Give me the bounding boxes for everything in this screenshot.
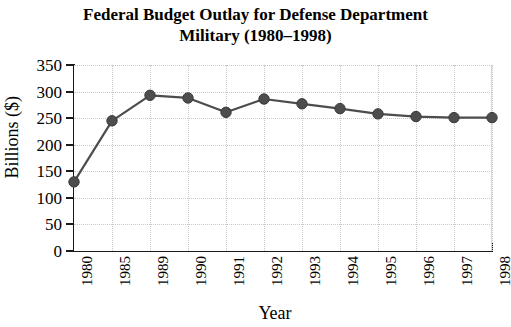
x-tick-label: 1998 bbox=[498, 256, 511, 286]
x-axis-title: Year bbox=[230, 303, 320, 324]
data-series-line bbox=[74, 65, 492, 251]
data-point-marker bbox=[411, 111, 421, 121]
data-point-marker bbox=[297, 99, 307, 109]
gridline-vertical bbox=[492, 65, 493, 251]
y-tick-label: 300 bbox=[37, 84, 63, 101]
y-tick-label: 150 bbox=[37, 163, 63, 180]
x-tick-label: 1995 bbox=[384, 256, 399, 286]
data-point-marker bbox=[259, 94, 269, 104]
y-tick-label: 0 bbox=[54, 243, 63, 260]
data-point-marker bbox=[107, 116, 117, 126]
x-tick-label: 1990 bbox=[194, 256, 209, 286]
data-point-marker bbox=[221, 107, 231, 117]
x-tick-label: 1994 bbox=[346, 256, 361, 286]
x-tick-label: 1997 bbox=[460, 256, 475, 286]
data-point-marker bbox=[69, 177, 79, 187]
data-point-marker bbox=[487, 112, 497, 122]
y-axis-title: Billions ($) bbox=[2, 96, 23, 179]
x-tick-label: 1996 bbox=[422, 256, 437, 286]
plot-area bbox=[74, 65, 492, 251]
chart-title-line-1: Federal Budget Outlay for Defense Depart… bbox=[0, 4, 511, 25]
chart-title: Federal Budget Outlay for Defense Depart… bbox=[0, 4, 511, 46]
y-tick-label: 250 bbox=[37, 110, 63, 127]
x-tick-label: 1993 bbox=[308, 256, 323, 286]
y-tick-label: 350 bbox=[37, 57, 63, 74]
x-tick-label: 1980 bbox=[80, 256, 95, 286]
x-tick-label: 1992 bbox=[270, 256, 285, 286]
chart-title-line-2: Military (1980–1998) bbox=[0, 25, 511, 46]
y-tick-label: 50 bbox=[45, 216, 62, 233]
y-tick-label: 200 bbox=[37, 137, 63, 154]
data-point-marker bbox=[335, 103, 345, 113]
series-polyline bbox=[74, 95, 492, 182]
chart-figure: Federal Budget Outlay for Defense Depart… bbox=[0, 0, 511, 327]
x-tick-label: 1991 bbox=[232, 256, 247, 286]
data-point-marker bbox=[373, 109, 383, 119]
data-point-marker bbox=[145, 90, 155, 100]
data-point-marker bbox=[183, 93, 193, 103]
x-tick-label: 1985 bbox=[118, 256, 133, 286]
data-point-marker bbox=[449, 112, 459, 122]
x-tick-label: 1989 bbox=[156, 256, 171, 286]
y-tick-label: 100 bbox=[37, 190, 63, 207]
series-markers bbox=[69, 90, 497, 187]
